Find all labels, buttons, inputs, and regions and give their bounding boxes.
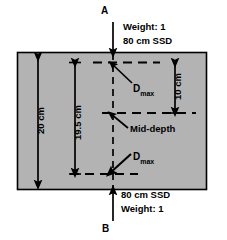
dmax-upper-label: Dmax bbox=[133, 78, 154, 97]
beam-b-weight-label: Weight: 1 bbox=[121, 204, 164, 214]
dmax-upper-subscript: max bbox=[140, 90, 154, 97]
middepth-label: Mid-depth bbox=[130, 124, 175, 134]
beam-b-ssd-label: 80 cm SSD bbox=[121, 190, 170, 200]
dmax-lower-label: Dmax bbox=[133, 146, 154, 165]
dim-19p5cm-label: 19.5 cm bbox=[73, 105, 83, 140]
dmax-lower-subscript: max bbox=[140, 158, 154, 165]
figure-canvas: A Weight: 1 80 cm SSD 80 cm SSD Weight: … bbox=[0, 0, 227, 240]
dim-10cm-label: 10 cm bbox=[173, 73, 183, 100]
dim-20cm-label: 20 cm bbox=[36, 107, 46, 134]
field-label-a: A bbox=[101, 6, 108, 17]
beam-a-weight-label: Weight: 1 bbox=[123, 22, 166, 32]
field-label-b: B bbox=[102, 224, 109, 235]
beam-a-ssd-label: 80 cm SSD bbox=[123, 36, 172, 46]
